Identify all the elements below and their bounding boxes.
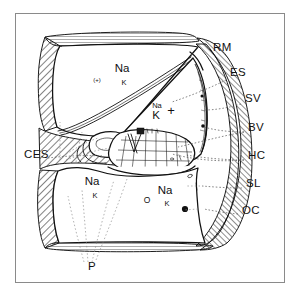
label-BV: BV [248,121,264,133]
scala-tympani-right-osmotic: O [144,195,151,205]
scala-tympani-left-k: K [92,191,97,200]
blood-vessel-marker [182,206,188,212]
scala-tympani-left-na: Na [85,175,100,187]
label-P: P [88,260,96,272]
scala-vestibuli-charge: (+) [93,77,101,83]
label-ES: ES [230,66,246,78]
figure-root: RM ES SV BV HC SL OC CES P Na K (+) Na K… [0,0,299,301]
scala-media-charge: + [167,103,175,118]
scala-vestibuli-k: K [121,78,126,87]
label-RM: RM [213,41,232,53]
scala-vestibuli-na: Na [115,62,130,74]
scala-tympani-outline [53,168,205,243]
scala-media-k: K [152,109,160,121]
label-OC: OC [242,204,260,216]
scala-tympani-right-na: Na [158,184,173,196]
cochlea-cross-section-drawing: RM ES SV BV HC SL OC CES P Na K (+) Na K… [0,0,299,301]
label-SV: SV [245,92,261,104]
scala-tympani-right-k: K [164,199,169,208]
label-HC: HC [248,149,265,161]
label-CES: CES [24,148,49,160]
label-SL: SL [246,177,261,189]
